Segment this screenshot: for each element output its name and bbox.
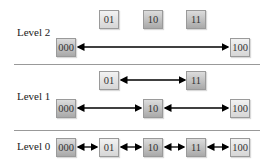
node-10: 10 xyxy=(143,99,163,118)
node-01: 01 xyxy=(99,71,119,90)
node-01: 01 xyxy=(99,138,119,157)
node-10: 10 xyxy=(143,138,163,157)
level-1-label: Level 1 xyxy=(17,90,50,102)
node-100: 100 xyxy=(230,38,250,57)
node-11: 11 xyxy=(186,138,206,157)
node-000: 000 xyxy=(56,99,76,118)
node-10: 10 xyxy=(143,10,163,29)
level-2-label: Level 2 xyxy=(17,26,50,38)
node-000: 000 xyxy=(56,38,76,57)
node-100: 100 xyxy=(230,138,250,157)
node-11: 11 xyxy=(186,71,206,90)
node-11: 11 xyxy=(186,10,206,29)
node-000: 000 xyxy=(56,138,76,157)
level-0-label: Level 0 xyxy=(17,140,50,152)
node-01: 01 xyxy=(99,10,119,29)
node-100: 100 xyxy=(230,99,250,118)
level-separator xyxy=(14,64,260,65)
level-separator xyxy=(14,130,260,131)
